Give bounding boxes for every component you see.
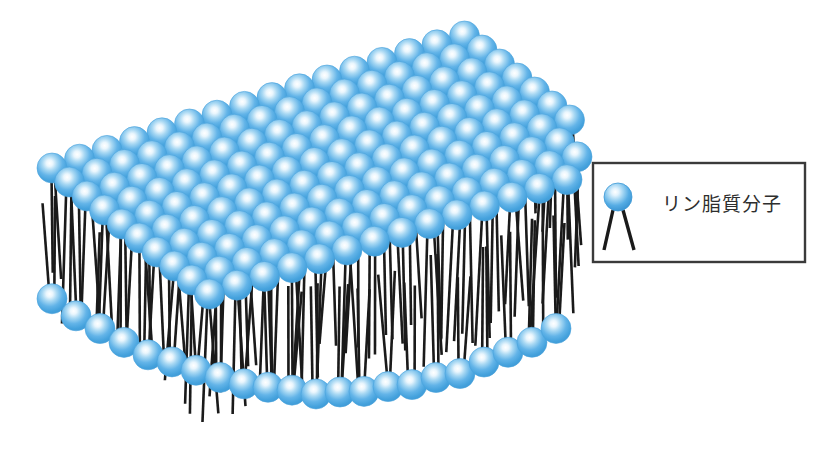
lipid-head-sphere bbox=[360, 226, 390, 256]
legend-label: リン脂質分子 bbox=[662, 193, 782, 215]
lipid-tail bbox=[292, 279, 293, 386]
lipid-tail bbox=[543, 200, 544, 339]
phospholipid-bilayer-figure: リン脂質分子 bbox=[0, 0, 836, 453]
lipid-tail bbox=[79, 199, 81, 304]
lipid-head-sphere bbox=[195, 279, 225, 309]
lipid-head-sphere bbox=[332, 235, 362, 265]
lipid-head-sphere bbox=[470, 191, 500, 221]
lipid-tail bbox=[555, 177, 556, 298]
lipid-tail bbox=[369, 252, 370, 358]
lipid-tail bbox=[54, 196, 55, 287]
lipid-head-sphere bbox=[415, 209, 445, 239]
lipid-tail bbox=[311, 286, 313, 382]
lipid-head-sphere bbox=[222, 270, 252, 300]
lipid-tail bbox=[190, 291, 192, 413]
lipid-head-sphere bbox=[525, 173, 555, 203]
lipid-head-sphere bbox=[497, 182, 527, 212]
lipid-head-sphere bbox=[387, 217, 417, 247]
lipid-tail bbox=[125, 235, 126, 339]
lipid-head-sphere bbox=[305, 244, 335, 274]
bilayer-diagram-canvas: リン脂質分子 bbox=[0, 0, 836, 453]
lipid-tail bbox=[482, 247, 483, 350]
lipid-head-sphere bbox=[541, 313, 571, 343]
lipid-tail bbox=[52, 179, 53, 273]
lipid-tail bbox=[338, 287, 339, 380]
lipid-head-sphere bbox=[277, 253, 307, 283]
lipid-head-sphere bbox=[250, 261, 280, 291]
lipid-tail bbox=[70, 193, 71, 316]
legend-lipid-head-sphere bbox=[604, 183, 632, 211]
lipid-head-sphere bbox=[552, 165, 582, 195]
lipid-head-sphere bbox=[442, 200, 472, 230]
legend: リン脂質分子 bbox=[593, 163, 805, 262]
lipid-tail bbox=[510, 232, 511, 341]
